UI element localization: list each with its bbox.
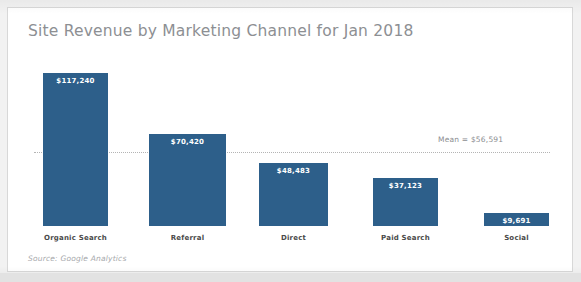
category-label-direct: Direct <box>245 234 342 242</box>
bar-referral[interactable] <box>149 134 226 226</box>
category-label-organic-search: Organic Search <box>29 234 122 242</box>
mean-reference-label: Mean = $56,591 <box>438 135 503 144</box>
bar-value-label-direct: $48,483 <box>259 167 328 175</box>
chart-card: Site Revenue by Marketing Channel for Ja… <box>7 7 573 272</box>
source-note: Source: Google Analytics <box>28 254 127 263</box>
bar-chart-plot-area: Mean = $56,591 $117,240Organic Search$70… <box>8 8 573 272</box>
bar-value-label-organic-search: $117,240 <box>43 77 108 85</box>
page-bottom-edge <box>0 273 581 282</box>
bar-value-label-referral: $70,420 <box>149 138 226 146</box>
category-label-social: Social <box>470 234 563 242</box>
mean-reference-line <box>34 152 550 153</box>
bar-value-label-paid-search: $37,123 <box>373 182 438 190</box>
bar-value-label-social: $9,691 <box>484 217 549 225</box>
bar-organic-search[interactable] <box>43 73 108 226</box>
category-label-referral: Referral <box>135 234 240 242</box>
category-label-paid-search: Paid Search <box>359 234 452 242</box>
